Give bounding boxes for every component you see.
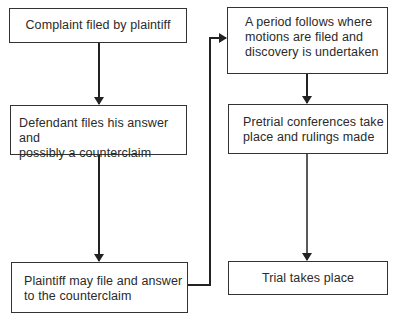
node-text: discovery is undertaken	[245, 45, 387, 60]
node-text: Plaintiff may file and answer	[24, 274, 187, 289]
node-trial: Trial takes place	[228, 261, 388, 295]
node-text: Trial takes place	[262, 271, 354, 286]
node-discovery: A period follows where motions are filed…	[227, 7, 388, 74]
node-text: A period follows where	[245, 15, 387, 30]
node-pretrial: Pretrial conferences take place and ruli…	[228, 104, 388, 154]
node-text: Pretrial conferences take	[243, 115, 387, 130]
node-text: to the counterclaim	[24, 289, 187, 304]
node-complaint: Complaint filed by plaintiff	[9, 8, 187, 43]
node-text: Defendant files his answer and	[19, 116, 186, 146]
arrow-plaintiff-to-discovery	[188, 38, 226, 285]
node-text: motions are filed and	[245, 30, 387, 45]
node-text: possibly a counterclaim	[19, 146, 186, 161]
node-text: Complaint filed by plaintiff	[25, 18, 170, 33]
node-plaintiff-reply: Plaintiff may file and answer to the cou…	[11, 262, 188, 313]
node-defendant-answer: Defendant files his answer and possibly …	[10, 105, 187, 155]
node-text: place and rulings made	[243, 130, 387, 145]
